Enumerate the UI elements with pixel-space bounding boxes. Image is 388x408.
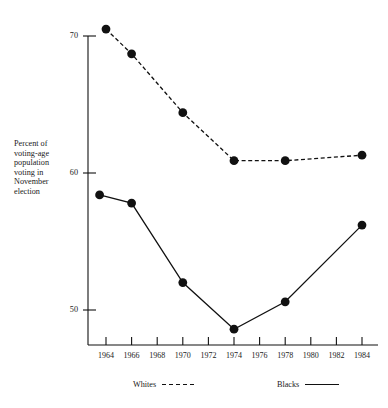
data-point-whites-1970[interactable] xyxy=(178,108,187,117)
data-point-blacks-1970[interactable] xyxy=(178,278,187,287)
data-series xyxy=(95,25,366,334)
series-line-blacks xyxy=(100,195,362,329)
data-point-whites-1966[interactable] xyxy=(127,49,136,58)
data-point-whites-1978[interactable] xyxy=(281,156,290,165)
legend-item-blacks[interactable]: Blacks xyxy=(277,380,339,389)
legend-label-whites: Whites xyxy=(133,380,156,389)
y-tick-label-50: 50 xyxy=(56,305,78,314)
legend-swatch-whites xyxy=(162,382,196,388)
data-point-blacks-1963.5[interactable] xyxy=(95,191,104,200)
plot-area xyxy=(0,0,388,408)
series-line-whites xyxy=(106,29,362,161)
data-point-blacks-1984[interactable] xyxy=(358,221,367,230)
data-point-blacks-1974[interactable] xyxy=(230,325,239,334)
legend-label-blacks: Blacks xyxy=(277,380,299,389)
data-point-blacks-1978[interactable] xyxy=(281,297,290,306)
data-point-blacks-1966[interactable] xyxy=(127,199,136,208)
chart-figure: Percent of voting-age population voting … xyxy=(0,0,388,408)
chart-legend: WhitesBlacks xyxy=(0,380,388,396)
axes xyxy=(83,36,378,345)
y-tick-label-70: 70 xyxy=(56,31,78,40)
legend-item-whites[interactable]: Whites xyxy=(133,380,196,389)
data-point-whites-1974[interactable] xyxy=(230,156,239,165)
data-point-whites-1964[interactable] xyxy=(102,25,111,34)
y-tick-label-60: 60 xyxy=(56,168,78,177)
x-tick-label-1984: 1984 xyxy=(347,351,377,360)
legend-swatch-blacks xyxy=(305,382,339,388)
data-point-whites-1984[interactable] xyxy=(358,151,367,160)
